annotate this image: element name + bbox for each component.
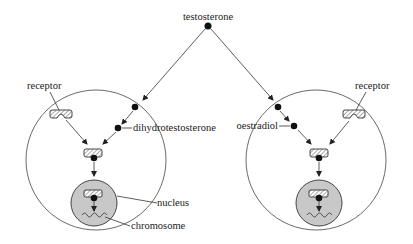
- conversion-arrow: [122, 111, 133, 124]
- arrow-to-right-cell: [211, 29, 273, 100]
- right-free-receptor: [343, 110, 365, 118]
- oestradiol-molecule: [291, 123, 298, 130]
- right-testosterone-inside: [275, 104, 282, 111]
- left-free-receptor: [50, 110, 72, 118]
- nucleus-label: nucleus: [157, 197, 189, 208]
- left-complex-hormone: [91, 155, 98, 162]
- left-receptor-leader: [50, 92, 60, 112]
- right-receptor-leader: [356, 92, 366, 110]
- hormone-binding-arrow: [103, 132, 116, 144]
- right-nuclear-hormone: [316, 195, 323, 202]
- receptor-binding-arrow: [330, 121, 349, 144]
- nucleus-leader: [117, 196, 157, 203]
- arrow-to-left-cell: [143, 29, 205, 100]
- right-receptor-label: receptor: [355, 80, 390, 91]
- left-nuclear-hormone: [91, 195, 98, 202]
- dihydrotestosterone-molecule: [115, 125, 122, 132]
- chromosome-leader: [105, 217, 130, 226]
- left-cell: receptor dihydrotestosterone nucleus chr…: [26, 80, 216, 231]
- chromosome-label: chromosome: [131, 220, 186, 231]
- receptor-binding-arrow: [66, 120, 87, 144]
- testosterone-label: testosterone: [183, 11, 233, 22]
- hormone-receptor-diagram: testosterone receptor dihydrotestosteron…: [0, 0, 413, 244]
- testosterone-molecule: [205, 23, 212, 30]
- hormone-binding-arrow: [298, 130, 311, 144]
- left-receptor-label: receptor: [27, 80, 62, 91]
- left-testosterone-inside: [132, 104, 139, 111]
- dihydrotestosterone-label: dihydrotestosterone: [133, 122, 216, 133]
- right-complex-hormone: [316, 155, 323, 162]
- aromatase-arrow: [280, 111, 289, 121]
- oestradiol-label: oestradiol: [237, 120, 278, 131]
- right-cell: receptor oestradiol: [237, 80, 390, 230]
